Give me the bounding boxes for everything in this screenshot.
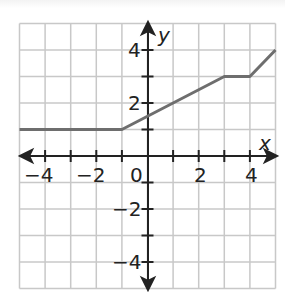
y-tick-label: 2 [128,91,141,115]
y-tick-label: −2 [112,197,141,221]
coordinate-plane: y x −4 −2 0 2 4 4 2 −2 −4 [0,0,285,292]
x-tick-label: −4 [24,163,53,187]
y-tick-label: 4 [128,38,141,62]
origin-label: 0 [130,163,143,187]
x-tick-label: −2 [76,163,105,187]
x-axis-label: x [258,131,271,155]
y-axis-label: y [157,23,171,47]
x-tick-label: 2 [194,163,207,187]
x-tick-label: 4 [245,163,258,187]
y-tick-label: −4 [112,250,141,274]
